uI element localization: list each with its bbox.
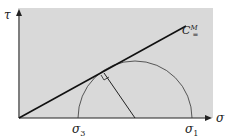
envelope-label: CM= <box>182 24 203 37</box>
mohr-diagram <box>0 0 236 140</box>
sigma3-label: σ3 <box>72 122 85 138</box>
sigma-label: σ <box>216 111 224 125</box>
tau-label: τ <box>4 8 11 22</box>
sigma1-label: σ1 <box>185 122 198 138</box>
